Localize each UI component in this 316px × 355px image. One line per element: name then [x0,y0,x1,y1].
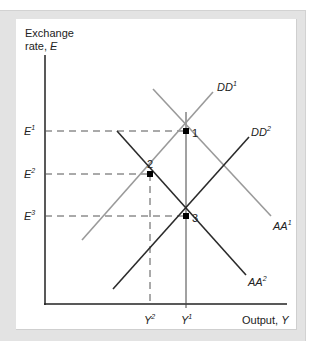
tick-E1: E1 [24,124,35,137]
label-DD2: DD2 [251,125,271,138]
curve-AA2 [117,131,246,275]
label-AA2: AA2 [247,275,267,288]
aa-dd-diagram: Exchange rate, E Output, Y DD1 DD2 AA1 A… [0,0,316,355]
tick-E3: E3 [24,209,35,222]
equilibrium-label-1: 1 [192,127,198,139]
label-DD1: DD1 [217,80,237,93]
equilibrium-label-3: 3 [192,212,198,224]
y-axis-label-line1: Exchange [25,27,74,39]
equilibrium-label-2: 2 [147,158,153,170]
curve-DD2 [113,137,249,289]
tick-Y2: Y2 [144,313,155,326]
equilibrium-point-2 [147,171,153,177]
y-axis-label-line2: rate, E [25,40,58,52]
tick-E2: E2 [24,167,35,180]
tick-Y1: Y1 [181,313,192,326]
x-axis-label: Output, Y [242,314,289,326]
label-AA1: AA1 [272,219,292,232]
curve-AA1 [153,89,271,216]
equilibrium-point-3 [183,213,189,219]
equilibrium-point-1 [183,128,189,134]
